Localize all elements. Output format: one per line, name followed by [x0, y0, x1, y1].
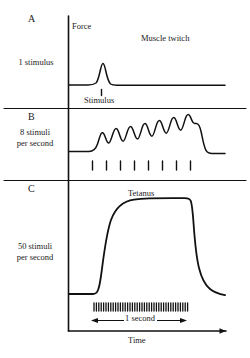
panel-b-stimulus-rate-line1: 8 stimuli: [6, 128, 64, 138]
force-axis-label: Force: [72, 22, 91, 32]
tetanus-label: Tetanus: [128, 189, 154, 199]
scale-bar-label: 1 second: [125, 314, 155, 324]
panel-letter-c: C: [28, 183, 35, 194]
panel-b-trace: [69, 115, 225, 154]
time-axis-arrowhead: [220, 328, 227, 334]
muscle-twitch-label: Muscle twitch: [141, 34, 189, 44]
scale-bar-arrow-right: [180, 318, 187, 323]
time-axis-label: Time: [128, 336, 146, 346]
figure-canvas: [0, 0, 250, 358]
panel-c-stimulus-bar: [94, 303, 188, 311]
panel-letter-a: A: [28, 13, 35, 24]
panel-b-stimulus-ticks: [93, 161, 191, 170]
panel-a-trace: [69, 64, 225, 86]
panel-c-stimulus-rate-line1: 50 stimuli: [6, 242, 64, 252]
panel-a-stimulus-rate-line1: 1 stimulus: [8, 58, 64, 68]
stimulus-marker-label: Stimulus: [84, 96, 114, 106]
muscle-twitch-figure: A 1 stimulus Force Muscle twitch Stimulu…: [0, 0, 250, 358]
panel-letter-b: B: [28, 111, 35, 122]
panel-c-stimulus-rate-line2: per second: [6, 253, 64, 263]
scale-bar-arrow-left: [91, 318, 98, 323]
panel-c-trace: [69, 198, 225, 295]
panel-b-stimulus-rate-line2: per second: [6, 139, 64, 149]
